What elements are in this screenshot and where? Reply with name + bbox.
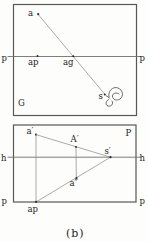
point-s-prime: [109, 156, 111, 158]
sight-ray-a-s: [39, 15, 105, 95]
point-s: [104, 94, 106, 96]
projection-diagram: p p a ap ag s G h: [0, 0, 148, 242]
label-plane-G: G: [18, 98, 25, 108]
label-point-a: a: [28, 8, 33, 18]
label-point-ap-top: ap: [28, 57, 39, 67]
label-point-a-dblprime: a″: [70, 178, 78, 188]
observer-sketch-icon: [106, 88, 122, 107]
diagram-canvas: p p a ap ag s G h: [0, 0, 148, 242]
label-point-ap-bottom: ap: [28, 204, 39, 214]
label-h-right: h: [140, 153, 146, 163]
label-point-s: s: [99, 91, 103, 101]
figure-caption: (b): [66, 227, 85, 240]
label-point-A-prime: A′: [70, 134, 79, 144]
label-p-left-bottom-panel: p: [2, 196, 8, 206]
ground-plane-panel: p p a ap ag s G: [2, 5, 146, 116]
label-h-left: h: [1, 153, 7, 163]
label-p-left-top-panel: p: [2, 53, 8, 63]
label-plane-P: P: [126, 128, 132, 138]
label-point-ag: ag: [63, 57, 74, 67]
label-point-s-prime: s′: [105, 146, 111, 156]
label-point-a-prime: a′: [27, 126, 34, 136]
picture-plane-panel: h h P a′ A′ a″ s′ ap p p: [1, 125, 146, 214]
label-p-right-top-panel: p: [140, 53, 146, 63]
label-p-right-bottom-panel: p: [140, 196, 146, 206]
